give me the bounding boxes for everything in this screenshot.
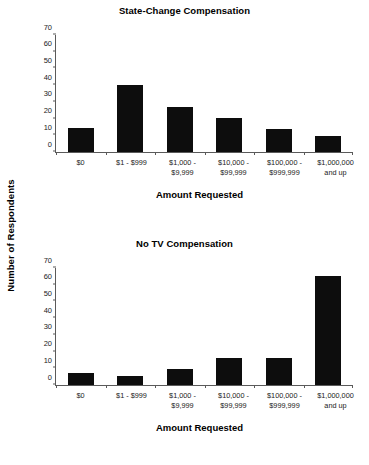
y-axis-tick-mark bbox=[53, 100, 56, 101]
y-axis-tick-mark bbox=[53, 50, 56, 51]
y-axis-tick-label: 30 bbox=[44, 91, 56, 99]
bar bbox=[216, 358, 242, 385]
plot-area: 010203040506070 bbox=[55, 268, 353, 386]
bar-slot bbox=[106, 268, 156, 385]
x-axis-category-label: $100,000 - $999,999 bbox=[259, 158, 310, 184]
chart-title: No TV Compensation bbox=[0, 232, 369, 252]
x-axis-tick-mark bbox=[56, 385, 57, 388]
bar-slot bbox=[106, 35, 156, 152]
bar bbox=[266, 358, 292, 385]
bar bbox=[216, 118, 242, 152]
y-axis-tick-label: 10 bbox=[44, 124, 56, 132]
x-axis-tick-mark bbox=[205, 385, 206, 388]
y-axis-tick-label: 0 bbox=[48, 141, 56, 149]
x-axis-category-labels: $0$1 - $999$1,000 - $9,999$10,000 - $99,… bbox=[55, 391, 361, 417]
y-axis-tick-mark bbox=[53, 333, 56, 334]
bar bbox=[266, 129, 292, 152]
bar-slot bbox=[205, 268, 255, 385]
bar bbox=[167, 107, 193, 152]
bar bbox=[315, 136, 341, 152]
bar-slot bbox=[254, 268, 304, 385]
y-axis-tick-mark bbox=[53, 267, 56, 268]
y-axis-tick-mark bbox=[53, 34, 56, 35]
y-axis-tick-mark bbox=[53, 283, 56, 284]
y-axis-tick-label: 10 bbox=[44, 357, 56, 365]
bar-series bbox=[56, 268, 353, 385]
bar-slot bbox=[304, 35, 354, 152]
x-axis-category-label: $10,000 - $99,999 bbox=[208, 158, 259, 184]
y-axis-tick-label: 0 bbox=[48, 374, 56, 382]
y-axis-tick-label: 30 bbox=[44, 324, 56, 332]
x-axis-category-label: $1 - $999 bbox=[106, 391, 157, 417]
x-axis-category-label: $0 bbox=[55, 391, 106, 417]
y-axis-tick-mark bbox=[53, 117, 56, 118]
y-axis-tick-mark bbox=[53, 67, 56, 68]
x-axis-tick-mark bbox=[155, 385, 156, 388]
x-axis-category-labels: $0$1 - $999$1,000 - $9,999$10,000 - $99,… bbox=[55, 158, 361, 184]
y-axis-tick-label: 60 bbox=[44, 273, 56, 281]
plot-wrapper: 010203040506070 bbox=[27, 268, 361, 386]
y-axis-tick-mark bbox=[53, 384, 56, 385]
y-axis-tick-label: 70 bbox=[44, 257, 56, 265]
x-axis-tick-mark bbox=[254, 152, 255, 155]
y-axis-tick-label: 50 bbox=[44, 290, 56, 298]
y-axis-tick-mark bbox=[53, 300, 56, 301]
x-axis-tick-mark bbox=[106, 385, 107, 388]
x-axis-category-label: $1,000 - $9,999 bbox=[157, 158, 208, 184]
bar-series bbox=[56, 35, 353, 152]
x-axis-category-label: $1,000,000 and up bbox=[310, 158, 361, 184]
bar bbox=[68, 373, 94, 385]
y-axis-tick-label: 40 bbox=[44, 307, 56, 315]
y-axis-tick-label: 50 bbox=[44, 57, 56, 65]
x-axis-category-label: $1,000,000 and up bbox=[310, 391, 361, 417]
bar bbox=[315, 276, 341, 385]
y-axis-tick-label: 40 bbox=[44, 74, 56, 82]
bar-slot bbox=[56, 268, 106, 385]
y-axis-tick-label: 60 bbox=[44, 40, 56, 48]
x-axis-title: Amount Requested bbox=[30, 422, 369, 433]
x-axis-category-label: $0 bbox=[55, 158, 106, 184]
y-axis-tick-mark bbox=[53, 317, 56, 318]
y-axis-tick-label: 70 bbox=[44, 24, 56, 32]
x-axis-tick-mark bbox=[155, 152, 156, 155]
x-axis-tick-mark bbox=[106, 152, 107, 155]
x-axis-tick-mark bbox=[304, 152, 305, 155]
x-axis-tick-mark bbox=[205, 152, 206, 155]
y-axis-tick-mark bbox=[53, 350, 56, 351]
chart-title: State-Change Compensation bbox=[0, 0, 369, 19]
bar-slot bbox=[205, 35, 255, 152]
x-axis-category-label: $1 - $999 bbox=[106, 158, 157, 184]
plot-wrapper: 010203040506070 bbox=[27, 35, 361, 153]
bar bbox=[68, 128, 94, 152]
bar-slot bbox=[155, 35, 205, 152]
x-axis-tick-mark bbox=[56, 152, 57, 155]
x-axis-category-label: $100,000 - $999,999 bbox=[259, 391, 310, 417]
x-axis-title: Amount Requested bbox=[30, 189, 369, 200]
y-axis-tick-mark bbox=[53, 151, 56, 152]
bar-slot bbox=[304, 268, 354, 385]
y-axis-tick-mark bbox=[53, 367, 56, 368]
x-axis-tick-mark bbox=[352, 385, 353, 388]
x-axis-tick-mark bbox=[254, 385, 255, 388]
bar bbox=[117, 376, 143, 385]
chart-state-change-compensation: State-Change Compensation 01020304050607… bbox=[0, 0, 369, 232]
chart-no-tv-compensation: No TV Compensation 010203040506070 $0$1 … bbox=[0, 232, 369, 465]
y-axis-tick-mark bbox=[53, 134, 56, 135]
x-axis-tick-mark bbox=[304, 385, 305, 388]
y-axis-tick-mark bbox=[53, 84, 56, 85]
x-axis-category-label: $10,000 - $99,999 bbox=[208, 391, 259, 417]
y-axis-tick-label: 20 bbox=[44, 107, 56, 115]
x-axis-tick-mark bbox=[352, 152, 353, 155]
plot-area: 010203040506070 bbox=[55, 35, 353, 153]
y-axis-tick-label: 20 bbox=[44, 340, 56, 348]
bar-slot bbox=[56, 35, 106, 152]
bar bbox=[167, 369, 193, 385]
x-axis-category-label: $1,000 - $9,999 bbox=[157, 391, 208, 417]
bar-slot bbox=[254, 35, 304, 152]
bar bbox=[117, 85, 143, 152]
bar-slot bbox=[155, 268, 205, 385]
